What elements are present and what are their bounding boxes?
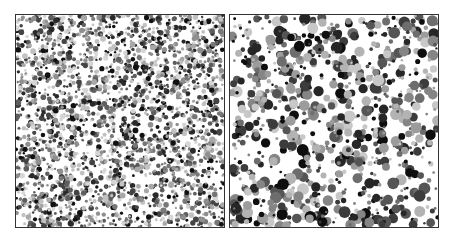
left-disc-packing-plot: [16, 15, 224, 227]
right-panel-description: Sparser packing of larger polydisperse g…: [230, 227, 231, 228]
left-disc-packing-panel: Dense packing of small polydisperse gray…: [15, 14, 225, 228]
left-panel-description: Dense packing of small polydisperse gray…: [16, 227, 17, 228]
right-disc-packing-plot: [230, 15, 438, 227]
right-disc-packing-panel: Sparser packing of larger polydisperse g…: [229, 14, 439, 228]
